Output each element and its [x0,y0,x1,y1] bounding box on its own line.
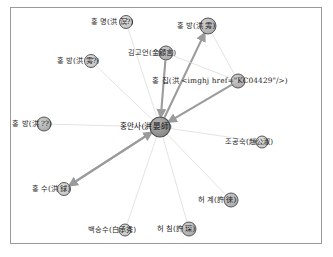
graph-node[interactable] [150,117,170,137]
graph-node[interactable] [120,16,133,29]
graph-edge [51,124,148,127]
graph-edge [171,129,255,141]
graph-edge [173,56,230,78]
graph-edge [170,85,232,121]
graph-node[interactable] [119,224,131,236]
graph-edge [127,138,156,224]
graph-node[interactable] [85,55,98,68]
graph-node[interactable] [159,46,173,60]
graph-edge [70,133,150,185]
graph-canvas [0,0,333,257]
graph-edge [212,33,234,73]
graph-node[interactable] [182,222,196,236]
graph-node[interactable] [256,136,268,148]
diagram-viewport: 홍 명(洪 溟?)홍 방(洪 雱)김고언(金顧言)홍 방(洪 雱?)홍 집(洪 … [0,0,333,257]
graph-node[interactable] [231,74,245,88]
graph-edge [128,29,156,116]
graph-node[interactable] [58,183,71,196]
graph-edge [161,60,165,115]
graph-node[interactable] [37,117,51,131]
graph-node[interactable] [200,18,216,34]
node-layer [37,16,268,237]
graph-node[interactable] [224,193,238,207]
graph-edge [96,66,152,119]
